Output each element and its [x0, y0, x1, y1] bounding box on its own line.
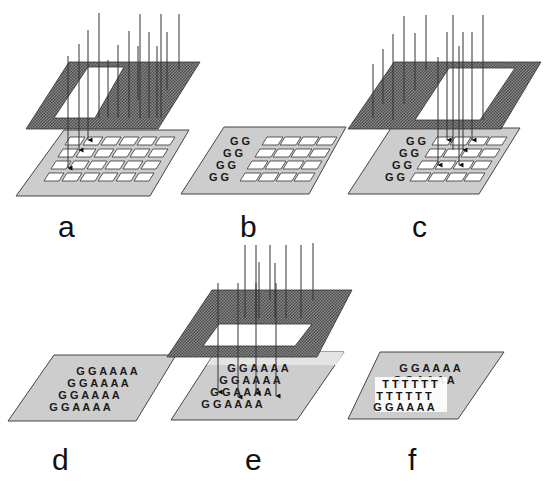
panel-d: G G A A A A G G A A A A G G A A A A G G …	[8, 355, 176, 476]
panel-label-f: f	[408, 443, 417, 476]
svg-text:G G: G G	[399, 147, 419, 159]
svg-text:G G: G G	[385, 171, 405, 183]
svg-text:G G A A A A: G G A A A A	[210, 386, 271, 398]
photolithography-diagram: a G G G G G G G G b G G G G G G	[0, 0, 551, 485]
svg-text:G G: G G	[230, 135, 250, 147]
svg-text:G G: G G	[223, 147, 243, 159]
svg-text:G G: G G	[209, 171, 229, 183]
panel-label-e: e	[245, 443, 262, 476]
svg-text:G G A A A A: G G A A A A	[373, 401, 434, 413]
mask-c	[348, 62, 541, 129]
svg-text:G G A A A A: G G A A A A	[67, 377, 128, 389]
svg-text:G G: G G	[392, 159, 412, 171]
hybridized-T-strands: T T T T T T T T T T T T G G A A A A	[373, 377, 447, 413]
panel-label-a: a	[58, 210, 75, 243]
svg-text:G G A A A A: G G A A A A	[201, 398, 262, 410]
panel-c: G G G G G G G G c	[348, 15, 541, 243]
panel-f: G G A A A A G G A A A A T T T T T T T T …	[348, 352, 504, 476]
panel-a: a	[16, 13, 200, 243]
panel-e: G G A A A A G G A A A A G G A A A A G G …	[167, 243, 352, 476]
svg-text:G G: G G	[216, 159, 236, 171]
svg-text:G G A A A A: G G A A A A	[399, 362, 460, 374]
svg-text:G G A A A A: G G A A A A	[49, 401, 110, 413]
panel-label-d: d	[52, 443, 69, 476]
panel-label-b: b	[240, 210, 257, 243]
svg-text:T T T T T T: T T T T T T	[382, 378, 438, 390]
mask-a	[26, 62, 200, 129]
panel-label-c: c	[412, 210, 427, 243]
panel-b: G G G G G G G G b	[181, 127, 346, 243]
svg-text:G G A A A A: G G A A A A	[219, 374, 280, 386]
svg-text:G G A A A A: G G A A A A	[227, 362, 288, 374]
svg-text:G G A A A A: G G A A A A	[76, 365, 137, 377]
svg-text:G G A A A A: G G A A A A	[58, 389, 119, 401]
svg-text:G G: G G	[406, 135, 426, 147]
